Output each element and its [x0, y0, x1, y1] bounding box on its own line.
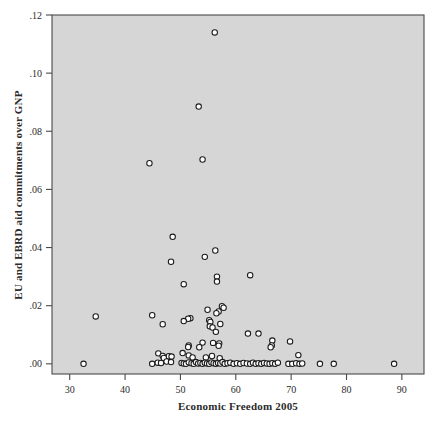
scatter-point: [150, 313, 155, 318]
scatter-point: [300, 361, 305, 366]
scatter-point: [170, 234, 175, 239]
y-tick-label: .08: [30, 126, 43, 137]
scatter-point: [81, 361, 86, 366]
scatter-point: [93, 314, 98, 319]
scatter-plot-figure: 30405060708090 .00.02.04.06.08.10.12 Eco…: [0, 0, 432, 421]
scatter-point: [169, 354, 174, 359]
y-axis-title: EU and EBRD aid commitments over GNP: [12, 90, 24, 299]
x-tick-label: 90: [397, 384, 407, 395]
y-tick-label: .00: [30, 358, 43, 369]
x-tick-label: 70: [286, 384, 296, 395]
scatter-point: [209, 353, 214, 358]
scatter-point: [210, 340, 215, 345]
scatter-point: [317, 361, 322, 366]
y-tick-label: .06: [30, 184, 43, 195]
scatter-point: [216, 343, 221, 348]
scatter-point: [147, 161, 152, 166]
scatter-point: [168, 359, 173, 364]
scatter-point: [168, 259, 173, 264]
scatter-point: [185, 344, 190, 349]
scatter-point: [158, 360, 163, 365]
scatter-point: [268, 345, 273, 350]
scatter-point: [181, 318, 186, 323]
scatter-point: [247, 272, 252, 277]
scatter-point: [214, 311, 219, 316]
scatter-point: [205, 307, 210, 312]
x-tick-label: 50: [175, 384, 185, 395]
scatter-point: [213, 248, 218, 253]
scatter-point: [213, 329, 218, 334]
scatter-point: [245, 331, 250, 336]
scatter-plot-svg: 30405060708090 .00.02.04.06.08.10.12 Eco…: [0, 0, 432, 421]
scatter-point: [200, 157, 205, 162]
scatter-point: [180, 350, 185, 355]
x-tick-label: 60: [231, 384, 241, 395]
scatter-point: [221, 305, 226, 310]
x-tick-label: 80: [342, 384, 352, 395]
scatter-point: [287, 339, 292, 344]
y-tick-label: .04: [30, 242, 43, 253]
scatter-point: [196, 104, 201, 109]
scatter-point: [203, 355, 208, 360]
scatter-point: [331, 361, 336, 366]
scatter-point: [214, 279, 219, 284]
x-tick-label: 40: [120, 384, 130, 395]
x-axis-title: Economic Freedom 2005: [178, 400, 298, 412]
y-tick-label: .10: [30, 68, 43, 79]
scatter-point: [256, 331, 261, 336]
scatter-point: [296, 352, 301, 357]
scatter-point: [181, 281, 186, 286]
scatter-point: [212, 30, 217, 35]
y-tick-label: .12: [30, 10, 43, 21]
scatter-point: [275, 360, 280, 365]
y-tick-label: .02: [30, 300, 43, 311]
scatter-point: [391, 361, 396, 366]
x-tick-label: 30: [65, 384, 75, 395]
scatter-point: [202, 254, 207, 259]
scatter-point: [218, 321, 223, 326]
scatter-point: [197, 345, 202, 350]
scatter-point: [160, 322, 165, 327]
plot-area-background: [52, 15, 424, 374]
scatter-point: [150, 361, 155, 366]
